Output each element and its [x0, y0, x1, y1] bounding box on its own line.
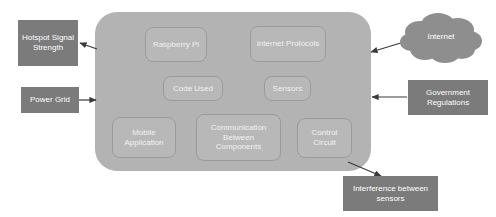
- node-label: Raspberry Pi: [153, 40, 199, 50]
- node-government-regulations[interactable]: Government Regulations: [408, 80, 488, 115]
- node-control-circuit[interactable]: Control Circuit: [297, 118, 352, 158]
- node-label: Code Used: [173, 84, 213, 94]
- node-label: Control Circuit: [301, 128, 348, 147]
- diagram-canvas: Raspberry Pi Internet Protocols Code Use…: [0, 0, 496, 217]
- node-label: Interference between sensors: [346, 184, 435, 203]
- node-communication-between-components[interactable]: Communication Between Components: [196, 114, 281, 161]
- arrow-container-to-interference: [348, 162, 381, 176]
- node-raspberry-pi[interactable]: Raspberry Pi: [145, 27, 207, 62]
- node-code-used[interactable]: Code Used: [163, 76, 223, 101]
- node-interference-between-sensors[interactable]: Interference between sensors: [343, 176, 438, 211]
- node-mobile-application[interactable]: Mobile Application: [112, 117, 176, 158]
- node-label: Sensors: [273, 84, 302, 94]
- node-hotspot-signal-strength[interactable]: Hotspot Signal Strength: [18, 20, 78, 66]
- node-label: Internet Protocols: [257, 39, 320, 49]
- arrow-container-to-hotspot: [80, 43, 97, 49]
- node-label: Hotspot Signal Strength: [21, 33, 75, 52]
- node-power-grid[interactable]: Power Grid: [21, 87, 79, 113]
- node-label: Internet: [398, 32, 484, 41]
- node-internet-protocols[interactable]: Internet Protocols: [250, 26, 326, 62]
- node-label: Government Regulations: [411, 88, 485, 107]
- node-label: Communication Between Components: [200, 123, 277, 152]
- node-internet[interactable]: Internet: [398, 12, 484, 64]
- node-sensors[interactable]: Sensors: [264, 76, 311, 101]
- node-label: Mobile Application: [116, 128, 172, 147]
- node-label: Power Grid: [30, 95, 70, 105]
